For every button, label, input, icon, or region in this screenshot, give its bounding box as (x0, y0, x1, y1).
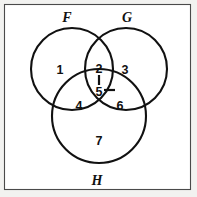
region-number: 5 (96, 85, 103, 99)
set-label-h: H (91, 173, 104, 188)
set-label-f: F (61, 10, 72, 25)
venn-diagram-canvas: F G H 1 2 3 4 5 6 7 (0, 0, 197, 197)
set-label-g: G (122, 10, 132, 25)
region-number: 4 (76, 99, 83, 113)
region-number: 2 (96, 62, 103, 76)
region-number: 3 (122, 63, 129, 77)
region-number: 1 (57, 63, 64, 77)
venn-diagram-figure: F G H 1 2 3 4 5 6 7 (0, 0, 197, 197)
region-number: 7 (96, 134, 103, 148)
region-number: 6 (117, 99, 124, 113)
